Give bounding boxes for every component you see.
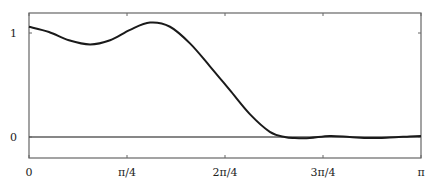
data-series xyxy=(29,22,421,138)
y-axis-ticks: 01 xyxy=(10,27,421,144)
y-tick-label: 1 xyxy=(10,27,17,40)
x-tick-label: 2π/4 xyxy=(213,166,238,179)
line-chart: 0π/42π/43π/4π 01 xyxy=(0,0,440,185)
x-tick-label: 0 xyxy=(26,166,33,179)
x-axis-ticks: 0π/42π/43π/4π xyxy=(26,13,425,179)
y-tick-label: 0 xyxy=(10,131,17,144)
x-tick-label: π xyxy=(417,166,424,179)
x-tick-label: 3π/4 xyxy=(311,166,336,179)
x-tick-label: π/4 xyxy=(118,166,136,179)
series-line xyxy=(29,22,421,138)
